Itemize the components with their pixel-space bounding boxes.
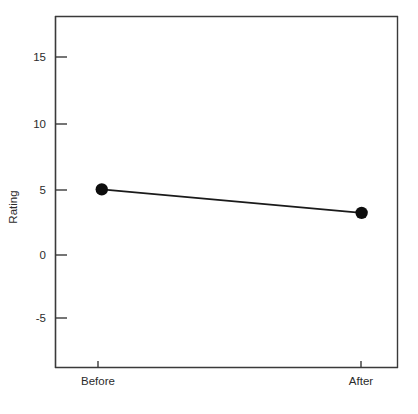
- data-point-marker: [355, 207, 367, 219]
- data-point-marker: [96, 183, 108, 195]
- y-tick-label: 5: [40, 184, 46, 196]
- chart-figure: 15 10 5 0 -5 Rating: [0, 0, 418, 414]
- y-tick-label: -5: [36, 312, 46, 324]
- y-tick-label: 15: [33, 51, 46, 63]
- y-tick-label: 10: [33, 118, 46, 130]
- x-tick-label: Before: [81, 375, 115, 387]
- y-axis-title: Rating: [7, 190, 19, 223]
- x-tick-label: After: [349, 375, 373, 387]
- y-tick-label: 0: [40, 249, 46, 261]
- line-chart-canvas: 15 10 5 0 -5 Rating: [0, 0, 418, 414]
